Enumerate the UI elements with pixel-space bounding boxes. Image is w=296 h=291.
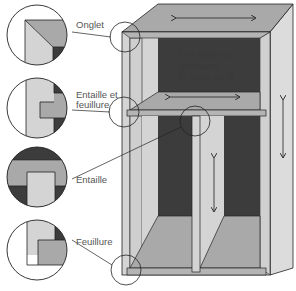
cabinet-diagram — [0, 0, 296, 291]
onglet-detail — [0, 0, 80, 80]
back-panel-lower-left — [158, 116, 196, 216]
label-feuillure: Feuillure — [76, 236, 112, 247]
label-onglet: Onglet — [76, 19, 104, 30]
note-line-3: le sens du fil — [179, 72, 235, 83]
vertical-divider — [192, 116, 200, 272]
label-feuillure-line2: feuillure — [76, 99, 109, 110]
back-panel-lower-right — [224, 116, 260, 216]
entaille-detail — [0, 140, 80, 220]
right-side-panel — [270, 4, 293, 275]
note-line-1: Les flèches — [179, 50, 230, 61]
cabinet — [109, 4, 293, 285]
feuillure-detail — [0, 210, 80, 290]
label-entaille: Entaille — [76, 174, 107, 185]
note-line-2: indiquent — [179, 61, 220, 72]
